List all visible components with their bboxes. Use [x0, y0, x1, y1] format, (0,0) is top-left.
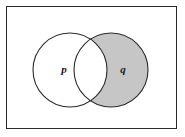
q-only-shaded-region: [0, 0, 185, 137]
circle-q-label: q: [118, 64, 128, 75]
circle-p-label: p: [59, 64, 69, 75]
venn-diagram-graphic: [0, 0, 185, 137]
venn-diagram-screenshot: p q: [0, 0, 185, 137]
